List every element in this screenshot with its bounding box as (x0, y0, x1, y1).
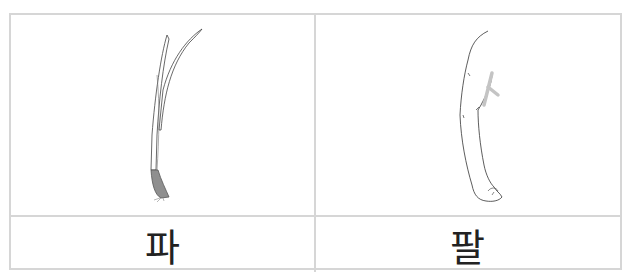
card-word-green-onion: 파 (11, 217, 316, 272)
card-image-cell-arm (316, 15, 621, 217)
arm-icon (316, 15, 621, 215)
card-word-arm: 팔 (316, 217, 621, 272)
card-image-cell-green-onion (11, 15, 316, 217)
vocabulary-card-table: 파 팔 (9, 13, 622, 270)
green-onion-icon (11, 15, 316, 215)
